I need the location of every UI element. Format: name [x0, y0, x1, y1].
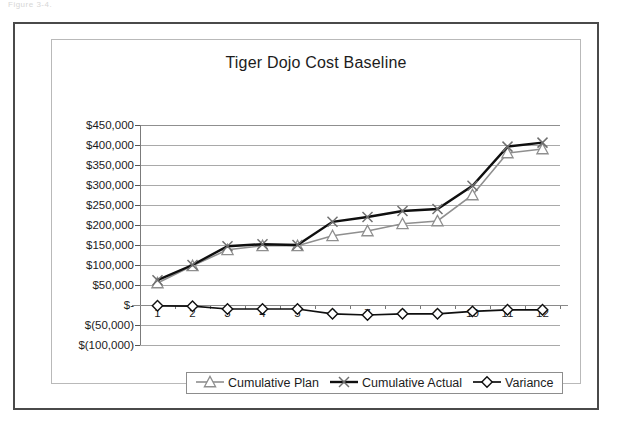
diamond-marker	[432, 309, 442, 319]
series-cumulative-plan	[152, 143, 548, 287]
series-cumulative-actual	[153, 138, 548, 286]
legend-entry: Cumulative Actual	[329, 375, 462, 392]
diamond-marker	[362, 310, 372, 320]
triangle-marker	[537, 143, 548, 153]
diamond-marker	[397, 309, 407, 319]
figure-caption-fragment: Figure 3-4.	[8, 0, 52, 9]
figure-outer-border: Tiger Dojo Cost Baseline $450,000$400,00…	[13, 22, 599, 410]
chart-legend: Cumulative PlanCumulative ActualVariance	[186, 372, 563, 394]
y-axis-tick-label: $350,000	[86, 159, 134, 171]
diamond-marker	[472, 375, 502, 392]
diamond-marker	[482, 376, 492, 386]
chart-title: Tiger Dojo Cost Baseline	[52, 54, 580, 72]
series-layer	[140, 125, 560, 345]
y-axis-tick-label: $250,000	[86, 199, 134, 211]
diamond-marker	[502, 305, 512, 315]
legend-label: Cumulative Actual	[362, 376, 462, 390]
y-axis-tick-label: $450,000	[86, 119, 134, 131]
legend-entry: Cumulative Plan	[195, 375, 319, 392]
y-axis-tick-label: $200,000	[86, 219, 134, 231]
y-axis-tick-label: $150,000	[86, 239, 134, 251]
diamond-marker	[152, 301, 162, 311]
triangle-marker	[195, 375, 225, 392]
y-axis-tick-label: $(50,000)	[85, 319, 134, 331]
cross-marker	[329, 375, 359, 392]
diamond-marker	[327, 309, 337, 319]
y-axis-tick-label: $300,000	[86, 179, 134, 191]
diamond-marker	[292, 304, 302, 314]
diamond-marker	[187, 301, 197, 311]
y-axis-tick-label: $400,000	[86, 139, 134, 151]
series-variance	[152, 301, 547, 321]
y-axis-tick-label: $50,000	[92, 279, 134, 291]
chart-container: Tiger Dojo Cost Baseline $450,000$400,00…	[51, 39, 581, 384]
y-axis-tick-label: $(100,000)	[78, 339, 134, 351]
y-axis-tick-label: $100,000	[86, 259, 134, 271]
series-line	[158, 306, 543, 315]
diamond-marker	[257, 304, 267, 314]
series-line	[158, 143, 543, 281]
legend-entry: Variance	[472, 375, 553, 392]
legend-label: Variance	[505, 376, 553, 390]
series-line	[158, 149, 543, 283]
gridline	[140, 345, 560, 346]
diamond-marker	[467, 306, 477, 316]
y-axis-labels: $450,000$400,000$350,000$300,000$250,000…	[52, 125, 134, 345]
diamond-marker	[222, 304, 232, 314]
legend-label: Cumulative Plan	[228, 376, 319, 390]
plot-area	[140, 125, 560, 345]
diamond-marker	[537, 305, 547, 315]
